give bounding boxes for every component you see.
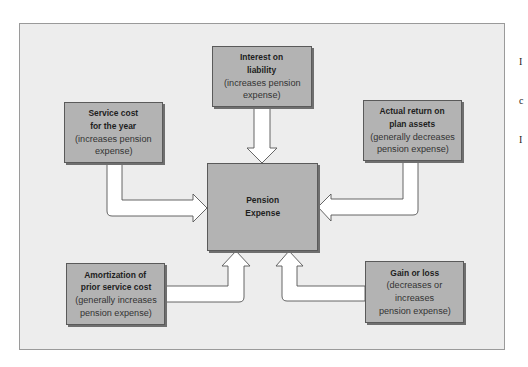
component-title: plan assets xyxy=(389,118,435,131)
component-description: pension expense) xyxy=(379,305,451,318)
component-interest-on-liability: Interest on liability (increases pension… xyxy=(212,46,312,107)
cropped-text-line: c xyxy=(519,94,524,107)
cropped-text-line: I xyxy=(519,133,524,146)
arrow-left-actual-return xyxy=(318,161,418,221)
component-service-cost: Service cost for the year (increases pen… xyxy=(64,102,163,163)
component-description: expense) xyxy=(95,145,132,158)
component-gain-or-loss: Gain or loss (decreases or increases pen… xyxy=(365,261,464,323)
component-description: (increases pension xyxy=(224,77,301,90)
component-description: increases xyxy=(395,292,434,305)
component-title: Gain or loss xyxy=(390,267,439,280)
component-title: Amortization of xyxy=(85,269,147,282)
cropped-text-line: I xyxy=(519,55,524,68)
component-title: Service cost xyxy=(89,107,139,120)
arrow-right-service-cost xyxy=(107,163,207,222)
component-description: pension expense) xyxy=(377,143,449,156)
component-title: for the year xyxy=(90,120,136,133)
arrow-up-amortization xyxy=(165,251,250,302)
center-title: Pension xyxy=(246,194,279,207)
arrow-up-gain-loss xyxy=(276,251,365,301)
component-actual-return: Actual return on plan assets (generally … xyxy=(363,100,462,161)
component-description: pension expense) xyxy=(80,307,152,320)
center-title: Expense xyxy=(245,207,280,220)
arrow-down-interest xyxy=(247,107,277,163)
component-amortization: Amortization of prior service cost (gene… xyxy=(66,263,165,325)
component-description: (generally increases xyxy=(75,294,157,307)
component-title: Actual return on xyxy=(380,105,445,118)
pension-expense-center: Pension Expense xyxy=(207,163,318,251)
component-title: prior service cost xyxy=(80,281,150,294)
cropped-margin-text: I c I xyxy=(519,29,524,159)
component-title: liability xyxy=(247,64,276,77)
component-title: Interest on xyxy=(240,51,283,64)
component-description: expense) xyxy=(243,89,280,102)
component-description: (decreases or xyxy=(387,279,443,292)
component-description: (increases pension xyxy=(75,133,152,146)
component-description: (generally decreases xyxy=(370,131,455,144)
